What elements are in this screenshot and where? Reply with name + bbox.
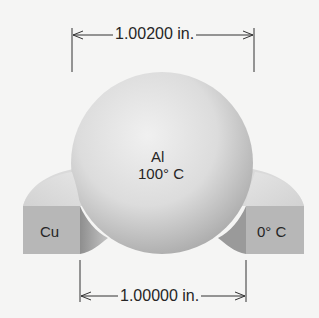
ring-temperature-label: 0° C — [257, 223, 286, 240]
copper-ring-left — [23, 172, 80, 254]
sphere-material-label: Al — [151, 148, 164, 165]
copper-ring-right — [246, 172, 304, 254]
top-dimension-label: 1.00200 in. — [113, 25, 196, 42]
ring-material-label: Cu — [40, 223, 59, 240]
sphere-temperature-label: 100° C — [138, 165, 184, 182]
bottom-dimension-label: 1.00000 in. — [118, 287, 201, 304]
